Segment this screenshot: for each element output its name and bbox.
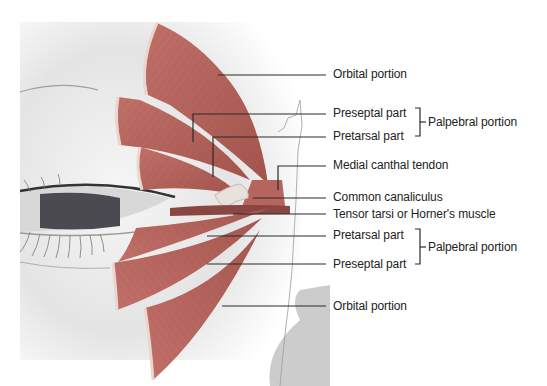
- label-orbital-portion-lower: Orbital portion: [333, 299, 407, 313]
- brackets: [415, 108, 426, 264]
- label-orbital-portion-upper: Orbital portion: [333, 67, 407, 81]
- anatomy-illustration: [0, 0, 547, 386]
- bracket-lower: [415, 229, 420, 264]
- label-medial-canthal-tendon: Medial canthal tendon: [333, 158, 448, 172]
- label-palpebral-portion-upper: Palpebral portion: [428, 115, 517, 129]
- iris: [40, 193, 120, 230]
- label-pretarsal-part-upper: Pretarsal part: [333, 129, 404, 143]
- label-tensor-tarsi: Tensor tarsi or Horner's muscle: [333, 207, 496, 221]
- label-common-canaliculus: Common canaliculus: [333, 190, 443, 204]
- bracket-upper: [415, 108, 420, 136]
- label-preseptal-part-lower: Preseptal part: [333, 257, 406, 271]
- orbicularis-oculi-diagram: Orbital portion Preseptal part Pretarsal…: [0, 0, 547, 386]
- label-pretarsal-part-lower: Pretarsal part: [333, 228, 404, 242]
- label-preseptal-part-upper: Preseptal part: [333, 106, 406, 120]
- label-palpebral-portion-lower: Palpebral portion: [428, 240, 517, 254]
